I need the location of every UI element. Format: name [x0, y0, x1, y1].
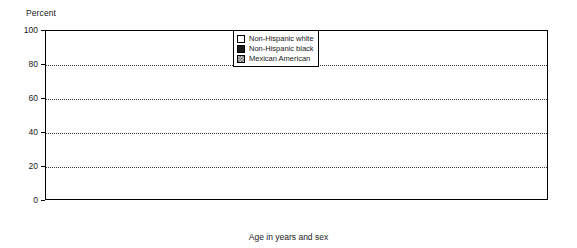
y-tick-label: 100 [16, 26, 38, 35]
gridline [46, 99, 547, 100]
y-tick-label: 20 [16, 162, 38, 171]
y-tick [41, 200, 45, 201]
legend: Non-Hispanic white Non-Hispanic black Me… [233, 30, 319, 67]
legend-item-non-hispanic-white: Non-Hispanic white [237, 34, 314, 43]
y-tick-label: 60 [16, 94, 38, 103]
percent-by-age-and-sex-bar-chart: Percent 020406080100 Non-Hispanic white … [0, 0, 577, 248]
legend-label-black: Non-Hispanic black [249, 44, 314, 53]
y-tick-label: 0 [16, 196, 38, 205]
gridline [46, 167, 547, 168]
legend-swatch-icon-mexican [237, 55, 245, 63]
y-tick-label: 40 [16, 128, 38, 137]
y-axis-title: Percent [26, 8, 56, 18]
legend-label-white: Non-Hispanic white [249, 34, 314, 43]
legend-swatch-icon-white [237, 35, 245, 43]
y-tick-label: 80 [16, 60, 38, 69]
x-axis-title: Age in years and sex [0, 232, 577, 242]
legend-label-mexican: Mexican American [249, 54, 310, 63]
legend-item-mexican-american: Mexican American [237, 54, 314, 63]
gridline [46, 133, 547, 134]
legend-item-non-hispanic-black: Non-Hispanic black [237, 44, 314, 53]
legend-swatch-icon-black [237, 45, 245, 53]
